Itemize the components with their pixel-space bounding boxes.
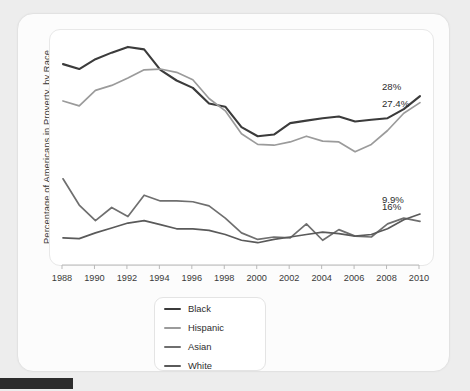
x-tick-label-1998: 1998 — [214, 273, 234, 283]
x-tick-label-2004: 2004 — [311, 273, 331, 283]
legend-item-asian[interactable]: Asian — [164, 339, 265, 355]
end-label-white: 9.9% — [382, 194, 404, 205]
x-axis-ticks: 1988199019921994199619982000200220042006… — [49, 264, 432, 290]
x-tick-label-1990: 1990 — [84, 273, 104, 283]
end-label-black: 27.4% — [382, 98, 410, 109]
series-line-hispanic — [63, 69, 420, 152]
x-tick-label-2000: 2000 — [247, 273, 267, 283]
series-line-asian — [63, 179, 420, 240]
x-tick-label-2006: 2006 — [344, 273, 364, 283]
x-tick-label-1988: 1988 — [52, 273, 72, 283]
x-tick-label-2008: 2008 — [376, 273, 396, 283]
series-line-black — [63, 47, 420, 136]
legend-swatch-white — [164, 365, 181, 368]
series-line-white — [63, 214, 420, 243]
bottom-accent-bar — [0, 378, 73, 389]
legend-swatch-asian — [164, 346, 181, 349]
x-tick-label-1992: 1992 — [117, 273, 137, 283]
legend-swatch-hispanic — [164, 327, 181, 330]
legend-label-white: White — [188, 361, 212, 371]
legend-label-hispanic: Hispanic — [188, 323, 224, 333]
x-tick-label-1996: 1996 — [182, 273, 202, 283]
legend-item-hispanic[interactable]: Hispanic — [164, 320, 265, 336]
legend-swatch-black — [164, 308, 181, 311]
legend-item-black[interactable]: Black — [164, 301, 265, 317]
x-tick-label-2002: 2002 — [279, 273, 299, 283]
x-tick-label-2010: 2010 — [409, 273, 429, 283]
legend-label-black: Black — [188, 304, 211, 314]
plot-panel: 27.4%28%16%9.9% — [49, 29, 434, 266]
plot-area: 27.4%28%16%9.9% — [50, 30, 433, 265]
chart-card: Percentage of Americans in Proverty, by … — [17, 13, 450, 372]
legend-item-white[interactable]: White — [164, 358, 265, 374]
end-label-hispanic: 28% — [382, 81, 402, 92]
chart-legend: Black Hispanic Asian White — [154, 297, 266, 371]
x-tick-label-1994: 1994 — [149, 273, 169, 283]
legend-label-asian: Asian — [188, 342, 211, 352]
x-axis: 1988199019921994199619982000200220042006… — [49, 264, 432, 290]
